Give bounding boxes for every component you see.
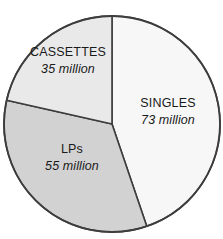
- pie-chart-graphic: [0, 0, 223, 239]
- pie-chart: SINGLES 73 million CASSETTES 35 million …: [0, 0, 223, 239]
